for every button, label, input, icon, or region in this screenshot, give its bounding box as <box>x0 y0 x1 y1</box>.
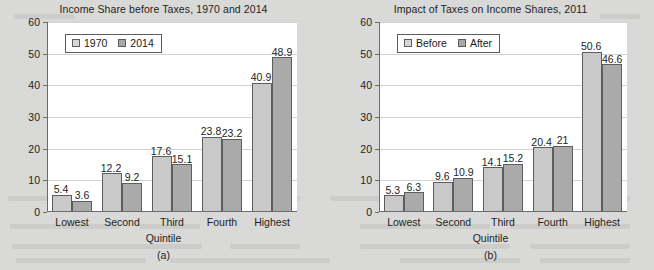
legend-item-1970[interactable]: 1970 <box>72 38 107 49</box>
bar-1970-second[interactable]: 12.2 <box>102 173 122 212</box>
bar-before-lowest[interactable]: 5.3 <box>384 195 404 212</box>
ytick-label-20-b: 20 <box>360 143 372 154</box>
ytick-label-50-a: 50 <box>28 48 40 59</box>
bar-value-label: 5.3 <box>385 185 400 196</box>
bar-1970-fourth[interactable]: 23.8 <box>202 137 222 212</box>
legend-label: Before <box>416 38 447 49</box>
bar-value-label: 12.2 <box>101 163 121 174</box>
bar-before-third[interactable]: 14.1 <box>483 167 503 212</box>
ytick-label-0-a: 0 <box>34 207 40 218</box>
ytick-0-a <box>43 212 47 213</box>
bar-value-label: 9.6 <box>435 171 450 182</box>
bar-value-label: 17.6 <box>151 146 171 157</box>
legend-label: 2014 <box>130 38 153 49</box>
bar-value-label: 5.4 <box>54 184 69 195</box>
bar-before-fourth[interactable]: 20.4 <box>533 147 553 212</box>
bar-2014-fourth[interactable]: 23.2 <box>222 139 242 213</box>
bar-after-highest[interactable]: 46.6 <box>602 64 622 212</box>
bar-group-fourth-b: 20.4 21 Fourth <box>528 22 578 212</box>
bar-2014-third[interactable]: 15.1 <box>172 164 192 212</box>
ytick-label-10-a: 10 <box>28 175 40 186</box>
chart-title-a: Income Share before Taxes, 1970 and 2014 <box>0 3 327 15</box>
bar-value-label: 50.6 <box>581 41 601 52</box>
bar-value-label: 46.6 <box>602 54 622 65</box>
legend-label: After <box>470 38 492 49</box>
ytick-label-30-b: 30 <box>360 112 372 123</box>
bar-after-second[interactable]: 10.9 <box>453 178 473 213</box>
bar-after-lowest[interactable]: 6.3 <box>404 192 424 212</box>
bar-value-label: 23.2 <box>222 128 242 139</box>
bar-group-highest-b: 50.6 46.6 Highest <box>577 22 627 212</box>
bar-1970-third[interactable]: 17.6 <box>152 156 172 212</box>
bar-value-label: 3.6 <box>75 190 90 201</box>
x-axis-label-b: Quintile <box>327 232 654 244</box>
bar-after-third[interactable]: 15.2 <box>503 164 523 212</box>
bar-1970-lowest[interactable]: 5.4 <box>52 195 72 212</box>
bar-value-label: 10.9 <box>453 167 473 178</box>
bar-before-second[interactable]: 9.6 <box>433 182 453 212</box>
y-axis-line-b <box>379 22 380 212</box>
bar-before-highest[interactable]: 50.6 <box>582 52 602 212</box>
ytick-label-40-b: 40 <box>360 80 372 91</box>
bar-value-label: 15.2 <box>503 153 523 164</box>
bar-group-fourth-a: 23.8 23.2 Fourth <box>197 22 247 212</box>
legend-b: Before After <box>397 34 500 53</box>
bar-after-fourth[interactable]: 21 <box>553 146 573 213</box>
ytick-label-20-a: 20 <box>28 143 40 154</box>
legend-item-2014[interactable]: 2014 <box>118 38 153 49</box>
xtick-label-second-a: Second <box>104 216 140 228</box>
bar-value-label: 6.3 <box>406 182 421 193</box>
plot-area-a: 60 50 40 30 20 10 0 5.4 3.6 Lowest <box>47 22 297 212</box>
legend-item-after[interactable]: After <box>458 38 492 49</box>
xtick-label-highest-b: Highest <box>584 216 620 228</box>
ytick-label-50-b: 50 <box>360 48 372 59</box>
xtick-label-second-b: Second <box>436 216 472 228</box>
xtick-label-lowest-a: Lowest <box>55 216 88 228</box>
ytick-label-60-a: 60 <box>28 17 40 28</box>
x-axis-label-a: Quintile <box>0 232 327 244</box>
ytick-label-60-b: 60 <box>360 17 372 28</box>
bar-1970-highest[interactable]: 40.9 <box>252 83 272 213</box>
chart-panel-a: Income Share before Taxes, 1970 and 2014… <box>0 0 327 270</box>
bar-2014-highest[interactable]: 48.9 <box>272 57 292 212</box>
x-axis-line-b <box>379 211 627 213</box>
ytick-label-10-b: 10 <box>360 175 372 186</box>
ytick-label-30-a: 30 <box>28 112 40 123</box>
legend-label: 1970 <box>84 38 107 49</box>
chart-title-b: Impact of Taxes on Income Shares, 2011 <box>327 3 654 15</box>
legend-swatch-icon <box>458 39 466 47</box>
xtick-label-highest-a: Highest <box>254 216 290 228</box>
panel-caption-a: (a) <box>0 249 327 261</box>
bar-value-label: 23.8 <box>201 126 221 137</box>
figure-two-bar-charts: Income Share before Taxes, 1970 and 2014… <box>0 0 654 270</box>
xtick-label-fourth-a: Fourth <box>207 216 237 228</box>
legend-swatch-icon <box>404 39 412 47</box>
ytick-label-40-a: 40 <box>28 80 40 91</box>
bar-value-label: 9.2 <box>125 172 140 183</box>
bar-value-label: 15.1 <box>172 154 192 165</box>
xtick-label-third-b: Third <box>491 216 515 228</box>
legend-a: 1970 2014 <box>65 34 162 53</box>
x-axis-line-a <box>47 211 297 213</box>
bar-value-label: 21 <box>557 135 569 146</box>
ytick-0-b <box>375 212 379 213</box>
legend-swatch-icon <box>72 39 80 47</box>
legend-item-before[interactable]: Before <box>404 38 447 49</box>
bar-group-highest-a: 40.9 48.9 Highest <box>247 22 297 212</box>
legend-swatch-icon <box>118 39 126 47</box>
ytick-label-0-b: 0 <box>366 207 372 218</box>
bar-2014-second[interactable]: 9.2 <box>122 183 142 212</box>
xtick-label-fourth-b: Fourth <box>537 216 567 228</box>
bar-value-label: 14.1 <box>482 157 502 168</box>
xtick-label-lowest-b: Lowest <box>387 216 420 228</box>
plot-area-b: 60 50 40 30 20 10 0 5.3 6.3 Lowest <box>379 22 627 212</box>
bar-value-label: 20.4 <box>531 137 551 148</box>
panel-caption-b: (b) <box>327 249 654 261</box>
xtick-label-third-a: Third <box>160 216 184 228</box>
y-axis-line-a <box>47 22 48 212</box>
chart-panel-b: Impact of Taxes on Income Shares, 2011 S… <box>327 0 654 270</box>
bar-value-label: 48.9 <box>272 47 292 58</box>
bar-value-label: 40.9 <box>251 72 271 83</box>
